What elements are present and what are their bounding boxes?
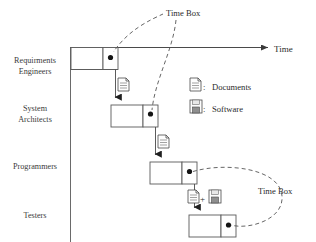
timebox-curve-to-d — [152, 20, 176, 110]
legend-document-icon — [190, 78, 201, 91]
phase-box-r — [71, 48, 118, 70]
phase-r-work-cell — [71, 48, 103, 70]
phase-c-milestone-dot — [187, 169, 192, 174]
phase-c-work-cell — [150, 162, 182, 184]
phase-r-milestone-dot — [108, 55, 113, 60]
diagram-vector-layer — [0, 0, 316, 242]
diagram-canvas: Requirments Engineers System Architects … — [0, 0, 316, 242]
legend-floppy-disk-icon — [190, 100, 202, 113]
artifact-document-r-to-d — [118, 78, 129, 91]
artifact-document-c-to-t — [188, 190, 199, 203]
artifact-document-d-to-c — [158, 135, 169, 148]
timebox-curve-to-r — [114, 14, 164, 52]
phase-box-d — [111, 105, 158, 127]
phase-t-milestone-dot — [226, 222, 231, 227]
phase-d-milestone-dot — [148, 111, 153, 116]
phase-d-work-cell — [111, 105, 143, 127]
phase-box-t — [189, 215, 236, 237]
phase-t-work-cell — [189, 215, 221, 237]
phase-box-c — [150, 162, 197, 184]
artifact-software-c-to-t — [209, 190, 221, 203]
